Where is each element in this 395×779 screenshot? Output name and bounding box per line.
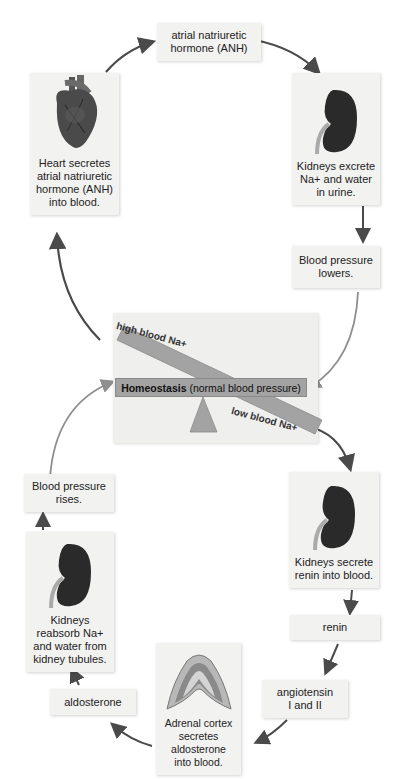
renin-box: renin — [290, 615, 380, 640]
angiotensin-label: angiotensin I and II — [277, 686, 333, 712]
kidney-renin-label: Kidneys secrete renin into blood. — [295, 556, 373, 582]
kidney-renin-box: Kidneys secrete renin into blood. — [289, 472, 379, 588]
renin-label: renin — [323, 621, 347, 634]
adrenal-box: Adrenal cortex secretes aldosterone into… — [156, 643, 241, 775]
kidney-excrete-box: Kidneys excrete Na+ and water in urine. — [292, 73, 380, 205]
bp-rises-label: Blood pressure rises. — [32, 480, 106, 506]
aldosterone-label: aldosterone — [64, 696, 122, 709]
heart-box: Heart secretes atrial natriuretic hormon… — [30, 73, 119, 215]
adrenal-cortex-icon — [163, 651, 235, 713]
kidney-excrete-label: Kidneys excrete Na+ and water in urine. — [297, 160, 375, 199]
bp-rises-box: Blood pressure rises. — [24, 474, 114, 512]
anh-hormone-label: atrial natriuretic hormone (ANH) — [170, 29, 247, 55]
bp-lowers-box: Blood pressure lowers. — [292, 246, 380, 288]
homeostasis-rest: (normal blood pressure) — [186, 382, 300, 394]
bp-lowers-label: Blood pressure lowers. — [299, 254, 373, 280]
aldosterone-box: aldosterone — [50, 689, 136, 715]
homeostasis-bar: Homeostasis (normal blood pressure) — [115, 378, 307, 397]
angiotensin-box: angiotensin I and II — [262, 680, 348, 718]
kidney-reabsorb-box: Kidneys reabsorb Na+ and water from kidn… — [26, 532, 114, 672]
homeostasis-bold: Homeostasis — [121, 382, 186, 394]
kidney-icon — [45, 542, 95, 610]
heart-label: Heart secretes atrial natriuretic hormon… — [36, 157, 113, 209]
anh-hormone-box: atrial natriuretic hormone (ANH) — [157, 23, 261, 61]
heart-icon — [45, 75, 105, 153]
kidney-reabsorb-label: Kidneys reabsorb Na+ and water from kidn… — [33, 614, 106, 666]
kidney-icon — [309, 484, 359, 552]
adrenal-label: Adrenal cortex secretes aldosterone into… — [165, 717, 233, 769]
kidney-icon — [311, 88, 361, 156]
